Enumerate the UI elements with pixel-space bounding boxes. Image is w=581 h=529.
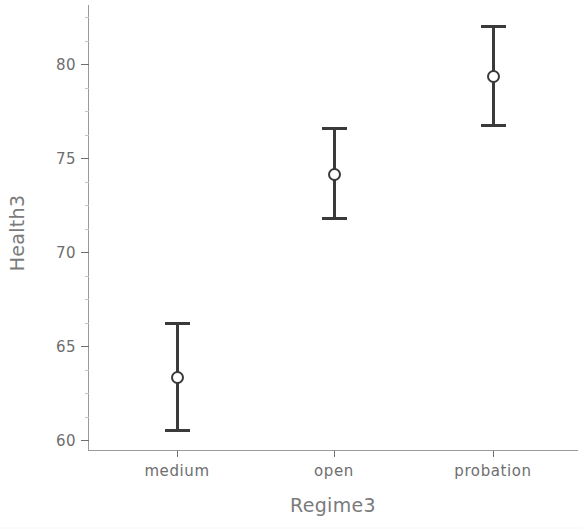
y-axis-title: Health3 (6, 183, 28, 283)
data-point-marker-open (328, 168, 341, 181)
y-minor-tick (85, 229, 89, 230)
data-point-marker-medium (171, 371, 184, 384)
x-tick-mark (493, 451, 494, 457)
data-point-marker-probation (487, 70, 500, 83)
y-axis-line (88, 5, 89, 451)
y-minor-tick (85, 135, 89, 136)
y-minor-tick (85, 111, 89, 112)
y-tick-mark (81, 346, 89, 347)
error-bar-chart: Health3 Regime3 60 65 70 75 80 medium op… (0, 0, 581, 529)
y-minor-tick (85, 88, 89, 89)
y-tick-label: 60 (28, 432, 76, 450)
y-tick-mark (81, 252, 89, 253)
error-cap-lower (165, 429, 190, 432)
x-tick-mark (334, 451, 335, 457)
y-tick-label: 80 (28, 56, 76, 74)
x-tick-label-open: open (254, 462, 414, 480)
y-tick-label: 65 (28, 338, 76, 356)
y-minor-tick (85, 323, 89, 324)
y-minor-tick (85, 17, 89, 18)
y-tick-mark (81, 64, 89, 65)
y-minor-tick (85, 41, 89, 42)
y-minor-tick (85, 182, 89, 183)
x-axis-title: Regime3 (88, 494, 578, 516)
x-tick-mark (177, 451, 178, 457)
error-cap-lower (481, 124, 506, 127)
y-minor-tick (85, 393, 89, 394)
x-axis-line (88, 450, 578, 451)
x-tick-label-probation: probation (413, 462, 573, 480)
y-tick-mark (81, 440, 89, 441)
y-minor-tick (85, 205, 89, 206)
x-tick-label-medium: medium (97, 462, 257, 480)
y-minor-tick (85, 299, 89, 300)
y-tick-mark (81, 158, 89, 159)
y-minor-tick (85, 276, 89, 277)
y-tick-label: 70 (28, 244, 76, 262)
y-minor-tick (85, 370, 89, 371)
error-cap-lower (322, 217, 347, 220)
y-tick-label: 75 (28, 150, 76, 168)
y-minor-tick (85, 417, 89, 418)
